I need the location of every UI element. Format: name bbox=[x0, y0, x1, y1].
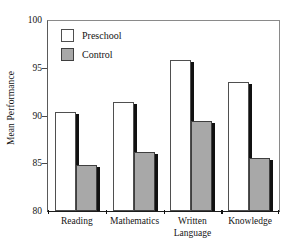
y-tick-label: 85 bbox=[20, 158, 42, 168]
x-tick-mark bbox=[106, 210, 107, 214]
bar-preschool-knowledge bbox=[228, 82, 249, 211]
legend-item: Preschool bbox=[61, 26, 121, 45]
y-axis-title: Mean Performance bbox=[0, 0, 22, 215]
bar-preschool-mathematics bbox=[113, 102, 134, 211]
legend-item-label: Control bbox=[82, 49, 113, 60]
gray-square-swatch bbox=[61, 48, 74, 61]
y-axis-title-text: Mean Performance bbox=[6, 70, 16, 144]
x-tick-mark bbox=[221, 210, 222, 214]
x-tick-mark bbox=[48, 210, 49, 214]
bar-chart: Mean Performance 10095908580 ReadingMath… bbox=[0, 0, 286, 244]
legend-item-label: Preschool bbox=[82, 30, 121, 41]
y-tick-label: 90 bbox=[20, 111, 42, 121]
bar-group bbox=[164, 20, 222, 211]
x-category-label: Knowledge bbox=[215, 216, 285, 228]
legend-item: Control bbox=[61, 45, 121, 64]
x-category-label-line1: Knowledge bbox=[215, 216, 285, 228]
x-tick-mark bbox=[278, 210, 279, 214]
y-tick-label: 95 bbox=[20, 63, 42, 73]
y-tick-label: 100 bbox=[20, 15, 42, 25]
bar-preschool-reading bbox=[55, 112, 76, 211]
bar-control-written-language bbox=[191, 121, 212, 211]
white-square-swatch bbox=[61, 29, 74, 42]
x-category-label-line2: Language bbox=[158, 228, 228, 240]
chart-legend: PreschoolControl bbox=[61, 26, 121, 64]
bar-group bbox=[221, 20, 279, 211]
bar-control-reading bbox=[76, 165, 97, 211]
bar-control-mathematics bbox=[134, 152, 155, 211]
y-tick-label: 80 bbox=[20, 206, 42, 216]
bar-control-knowledge bbox=[249, 158, 270, 211]
x-tick-mark bbox=[164, 210, 165, 214]
bar-preschool-written-language bbox=[170, 60, 191, 211]
